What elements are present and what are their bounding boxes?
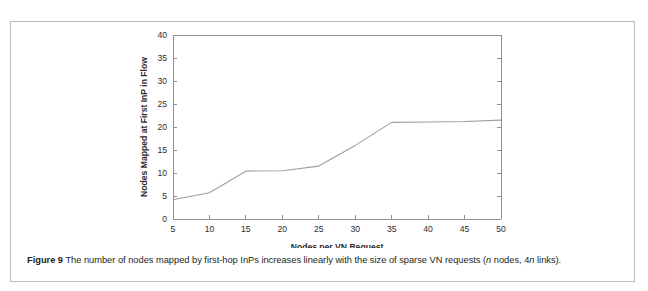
figure-caption: Figure 9 The number of nodes mapped by f… [27, 254, 623, 266]
x-tick-label: 20 [278, 224, 288, 234]
x-tick-label: 15 [241, 224, 251, 234]
chart-plot-area: 05101520253035405101520253035404550Nodes… [11, 22, 634, 248]
y-tick-label: 30 [157, 76, 167, 86]
x-tick-label: 50 [496, 224, 506, 234]
data-series-line [173, 120, 501, 200]
x-tick-label: 5 [171, 224, 176, 234]
caption-figure-number: Figure 9 [27, 255, 63, 265]
y-tick-label: 5 [162, 191, 167, 201]
y-tick-label: 10 [157, 168, 167, 178]
x-tick-label: 35 [387, 224, 397, 234]
clipped-top-text [0, 0, 648, 11]
x-tick-label: 30 [350, 224, 360, 234]
caption-text-part-2: nodes, 4 [491, 255, 529, 265]
chart-axes [173, 35, 501, 219]
y-tick-label: 0 [162, 214, 167, 224]
caption-text-part-3: links). [534, 255, 561, 265]
y-tick-label: 15 [157, 145, 167, 155]
x-axis-title: Nodes per VN Request [291, 242, 384, 248]
y-tick-label: 25 [157, 99, 167, 109]
x-tick-label: 40 [423, 224, 433, 234]
caption-text-part-1: The number of nodes mapped by first-hop … [63, 255, 486, 265]
y-tick-label: 35 [157, 53, 167, 63]
y-axis-title: Nodes Mapped at First InP in Flow [139, 57, 149, 197]
figure-container: 05101520253035405101520253035404550Nodes… [10, 21, 635, 282]
chart-frame-top-right [173, 35, 501, 219]
line-chart: 05101520253035405101520253035404550Nodes… [11, 22, 634, 248]
x-tick-label: 10 [205, 224, 215, 234]
y-tick-label: 20 [157, 122, 167, 132]
x-tick-label: 45 [460, 224, 470, 234]
y-tick-label: 40 [157, 30, 167, 40]
x-tick-label: 25 [314, 224, 324, 234]
y-axis-title-group: Nodes Mapped at First InP in Flow [139, 57, 149, 197]
